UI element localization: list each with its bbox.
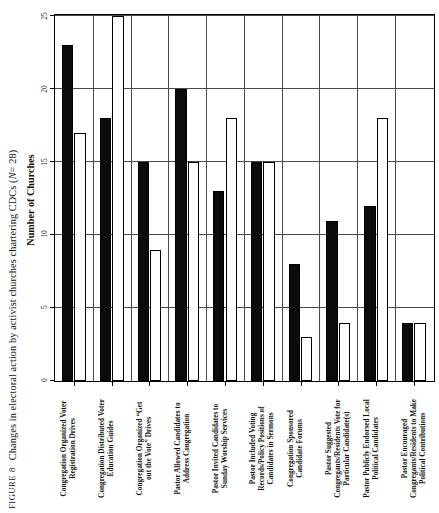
bar-filled-8 — [364, 206, 375, 381]
y-axis-tick-mark — [50, 380, 55, 381]
bar-hollow-3 — [188, 162, 199, 381]
category-label-line: out the Vote” Drives — [144, 417, 153, 480]
x-axis-category-label-text: Pastor Allowed Candidates toAddress Cong… — [173, 384, 203, 513]
category-label-line: Congregation Sponsored — [286, 410, 295, 487]
bar-filled-5 — [251, 162, 262, 381]
bar-hollow-7 — [339, 323, 350, 381]
bar-hollow-9 — [414, 323, 425, 381]
category-label-line: Address Congregation — [182, 414, 191, 484]
category-label-line: Pastor Included Voting — [248, 413, 257, 485]
y-axis-tick-mark — [50, 234, 55, 235]
bar-filled-1 — [100, 118, 111, 381]
category-label-line: Particular Candidate(s) — [342, 412, 351, 486]
bar-filled-3 — [175, 89, 186, 381]
category-label-line: Pastor Suggested — [324, 422, 333, 475]
category-label-line: Pastor Invited Candidates to — [211, 404, 220, 493]
bar-hollow-4 — [226, 118, 237, 381]
gridline-vertical — [319, 15, 320, 381]
bar-hollow-5 — [263, 162, 274, 381]
x-axis-category-label-text: Congregation Organized “Getout the Vote”… — [135, 384, 165, 513]
bar-filled-2 — [138, 162, 149, 381]
x-axis-category-label-text: Congregation Organized VoterRegistration… — [59, 384, 89, 513]
y-axis-tick-labels: 0510152025 — [38, 0, 52, 400]
figure-caption: FIGURE 8 Changes in electoral action by … — [0, 0, 24, 513]
category-label-line: Congregants/Residents to Make — [409, 399, 418, 498]
bar-hollow-6 — [301, 337, 312, 381]
category-label-line: Education Guides — [106, 421, 115, 477]
category-label-line: Sunday Worship Services — [220, 409, 229, 488]
gridline-vertical — [131, 15, 132, 381]
bar-filled-6 — [289, 264, 300, 381]
category-label-line: Political Candidates — [371, 417, 380, 480]
figure-caption-n-value: = 28) — [7, 150, 18, 173]
y-axis-title-text: Number of Churches — [22, 0, 38, 400]
gridline-vertical — [93, 15, 94, 381]
category-label-line: Congregation Distributed Voter — [97, 399, 106, 498]
bar-hollow-1 — [112, 16, 123, 381]
y-axis-tick-mark — [50, 88, 55, 89]
category-label-line: Pastor Encouraged — [400, 419, 409, 479]
x-axis-category-label-text: Congregation Distributed VoterEducation … — [97, 384, 127, 513]
bar-filled-7 — [326, 221, 337, 382]
bar-hollow-2 — [150, 250, 161, 381]
x-axis-category-label-text: Pastor Included VotingRecords/Policy Pos… — [248, 384, 278, 513]
category-label-line: Congregation Organized “Get — [135, 402, 144, 496]
category-label-line: Candidate Forums — [295, 419, 304, 478]
x-axis-category-label-text: Pastor Invited Candidates toSunday Worsh… — [211, 384, 241, 513]
chart-plot-area — [54, 14, 435, 382]
gridline-vertical — [357, 15, 358, 381]
gridline-vertical — [168, 15, 169, 381]
bar-hollow-8 — [377, 118, 388, 381]
bar-filled-9 — [402, 323, 413, 381]
chart-plot-inner — [55, 15, 434, 381]
gridline-vertical — [244, 15, 245, 381]
bar-filled-0 — [62, 45, 73, 381]
bar-hollow-0 — [74, 133, 85, 381]
y-axis-tick-mark — [50, 307, 55, 308]
category-label-line: Registration Drives — [69, 418, 78, 479]
x-axis-category-label-text: Congregation SponsoredCandidate Forums — [286, 384, 316, 513]
x-axis-category-label-text: Pastor Publicly Endorsed LocalPolitical … — [362, 384, 392, 513]
figure-label-word: FIGURE — [7, 475, 17, 509]
y-axis-tick-mark — [50, 15, 55, 16]
y-axis-tick-mark — [50, 161, 55, 162]
category-label-line: Political Contributions — [418, 413, 427, 484]
x-axis-category-label-text: Pastor SuggestedCongregants/Residents Vo… — [324, 384, 354, 513]
category-label-line: Pastor Allowed Candidates to — [173, 402, 182, 494]
category-label-line: Records/Policy Positions of — [257, 406, 266, 490]
y-axis-title: Number of Churches — [22, 0, 38, 400]
figure-number: 8 — [7, 467, 17, 472]
bar-filled-4 — [213, 191, 224, 381]
x-axis-category-labels: Congregation Organized VoterRegistration… — [54, 384, 435, 513]
gridline-vertical — [395, 15, 396, 381]
figure-caption-n-symbol: N — [7, 172, 18, 179]
category-label-line: Candidates in Sermons — [267, 412, 276, 484]
gridline-vertical — [282, 15, 283, 381]
x-axis-category-label-text: Pastor EncouragedCongregants/Residents t… — [400, 384, 430, 513]
gridline-vertical — [206, 15, 207, 381]
category-label-line: Pastor Publicly Endorsed Local — [362, 399, 371, 498]
category-label-line: Congregants/Residents Vote for — [333, 399, 342, 497]
figure-caption-text: Changes in electoral action by activist … — [7, 179, 18, 460]
x-axis-category-label: Pastor EncouragedCongregants/Residents t… — [400, 384, 439, 414]
